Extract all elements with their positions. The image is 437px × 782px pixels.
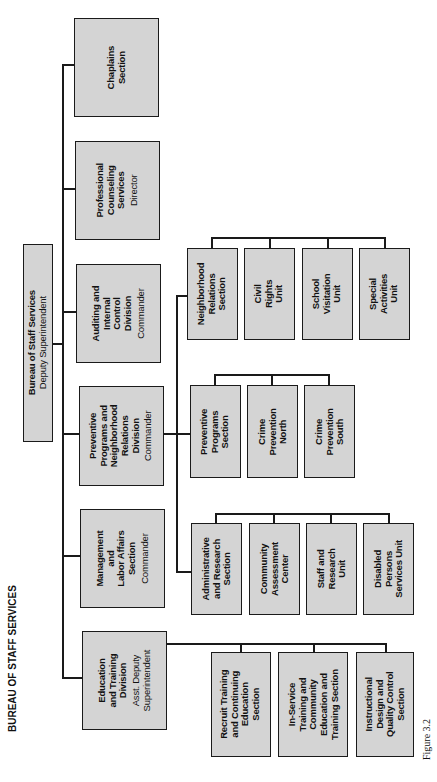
unit-crime-prevention-north[interactable]: Crime Prevention North [247, 385, 298, 478]
unit-name-line: Unit [333, 285, 344, 303]
division-name-line: Education [97, 658, 108, 702]
division-professional-counseling[interactable]: Professional Counseling Services Directo… [75, 141, 160, 240]
division-chaplains[interactable]: Chaplains Section [74, 18, 159, 117]
connector-professional [62, 188, 75, 190]
bus-drop [269, 237, 271, 248]
bus-drop [388, 513, 390, 523]
division-name-line: Control [112, 297, 123, 329]
division-name-line: Division [118, 663, 129, 698]
division-name-line: Section [116, 51, 127, 84]
division-name-line: Services [117, 172, 128, 210]
branch-administrative [176, 571, 191, 573]
root-connector [52, 343, 63, 345]
division-management-labor[interactable]: Management and Labor Affairs Section Com… [80, 509, 165, 608]
bus-drop [327, 237, 329, 248]
division-title: Asst. Deputy Superintendent [131, 646, 152, 716]
administrative-bus [215, 513, 389, 515]
bus-drop [214, 374, 216, 385]
connector-preventive-division [62, 433, 79, 435]
division-title: Commander [144, 411, 155, 461]
unit-name-line: Disabled [373, 550, 384, 588]
unit-name-line: South [335, 419, 346, 445]
unit-preventive-programs-section[interactable]: Preventive Programs Section [190, 385, 241, 478]
unit-crime-prevention-south[interactable]: Crime Prevention South [304, 385, 355, 478]
unit-neighborhood-relations[interactable]: Neighborhood Relations Section [187, 248, 238, 340]
unit-school-visitation[interactable]: School Visitation Unit [302, 248, 353, 340]
division-auditing[interactable]: Auditing and Internal Control Division C… [76, 264, 161, 363]
unit-name-line: Training Section [329, 669, 340, 740]
unit-name-line: Section [222, 553, 233, 586]
bus-drop [385, 643, 387, 652]
preventive-branch-spine [176, 295, 178, 572]
bus-drop [273, 513, 275, 523]
unit-staff-research[interactable]: Staff and Research Unit [306, 523, 357, 615]
unit-name-line: Education and [318, 673, 329, 736]
unit-instructional-design[interactable]: Instructional Design and Quality Control… [356, 652, 414, 757]
connector-auditing [62, 311, 76, 313]
bus-drop [330, 513, 332, 523]
bus-drop [211, 237, 213, 248]
figure-label: Figure 3.2 [421, 719, 432, 760]
root-bureau-box[interactable]: Bureau of Staff Services Deputy Superint… [23, 244, 53, 442]
main-spine [62, 64, 64, 679]
unit-recruit-training[interactable]: Recruit Training and Continuing Educatio… [211, 652, 271, 757]
unit-name-line: Community [259, 544, 270, 594]
unit-name-line: Staff and [316, 550, 327, 589]
division-name-line: Auditing and [91, 286, 102, 342]
unit-name-line: Crime [257, 419, 268, 445]
division-title: Commander [135, 288, 146, 338]
connector-education [62, 677, 82, 679]
unit-special-activities[interactable]: Special Activities Unit [359, 248, 410, 340]
connector-management [62, 555, 80, 557]
division-name-line: and Training [108, 653, 119, 707]
unit-disabled-persons[interactable]: Disabled Persons Services Unit [363, 523, 414, 615]
unit-name-line: Crime [314, 419, 325, 445]
unit-administrative-research[interactable]: Administrative and Research Section [191, 523, 242, 615]
unit-name-line: Center [280, 555, 291, 584]
unit-name-line: Section [396, 688, 407, 721]
bus-drop [215, 513, 217, 523]
unit-name-line: Administrative [201, 537, 212, 600]
unit-name-line: In-Service [286, 683, 297, 726]
division-title: Commander [139, 533, 150, 583]
unit-name-line: Services Unit [394, 540, 405, 598]
connector-chaplains [62, 64, 74, 66]
bus-drop [328, 374, 330, 385]
division-education-training[interactable]: Education and Training Division Asst. De… [82, 631, 167, 730]
education-bus [166, 643, 386, 645]
branch-neighborhood [176, 295, 187, 297]
bus-drop [240, 643, 242, 652]
unit-name-line: Unit [275, 285, 286, 303]
unit-name-line: North [278, 419, 289, 443]
unit-name-line: Section [252, 688, 263, 721]
unit-community-assessment[interactable]: Community Assessment Center [249, 523, 300, 615]
division-title: Director [129, 175, 140, 207]
division-name-line: Section [127, 542, 138, 575]
unit-name-line: Section [218, 278, 229, 311]
bus-drop [313, 643, 315, 652]
unit-name-line: Unit [390, 285, 401, 303]
unit-civil-rights[interactable]: Civil Rights Unit [244, 248, 295, 340]
division-name-line: Division [131, 418, 142, 453]
unit-name-line: Unit [337, 560, 348, 578]
unit-name-line: Section [221, 415, 232, 448]
division-preventive-programs[interactable]: Preventive Programs and Neighborhood Rel… [79, 386, 164, 486]
unit-name-line: Community [308, 679, 319, 729]
bus-drop [271, 374, 273, 385]
division-name-line: Division [123, 296, 134, 331]
unit-name-line: Assessment [269, 542, 280, 596]
page-title: BUREAU OF STAFF SERVICES [7, 585, 18, 732]
neighborhood-bus [211, 237, 385, 239]
root-title: Deputy Superintendent [38, 297, 49, 390]
bus-drop [384, 237, 386, 248]
division-name-line: Chaplains [106, 46, 117, 90]
unit-in-service-training[interactable]: In-Service Training and Community Educat… [278, 652, 348, 757]
